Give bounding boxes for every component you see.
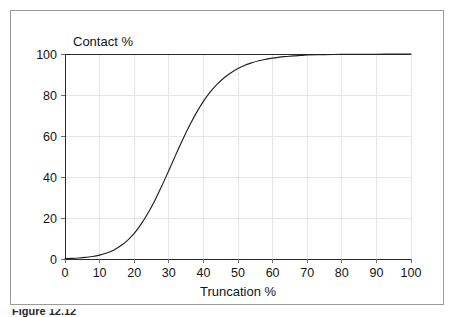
y-axis-tick-label: 80 xyxy=(43,89,57,103)
x-axis-title: Truncation % xyxy=(200,284,277,299)
y-axis-tick-label: 20 xyxy=(43,212,57,226)
y-axis-tick-label: 0 xyxy=(50,253,57,267)
x-axis-tick-label: 90 xyxy=(369,266,383,280)
chart-plot-container: 020406080100 0102030405060708090100 Cont… xyxy=(11,11,445,306)
figure-caption-text: Figure 12.12 xyxy=(12,309,182,317)
figure-page: 020406080100 0102030405060708090100 Cont… xyxy=(0,0,454,317)
y-axis-tick-label: 100 xyxy=(36,48,57,62)
x-axis-ticks-group: 0102030405060708090100 xyxy=(62,259,422,280)
x-axis-tick-label: 50 xyxy=(231,266,245,280)
x-axis-tick-label: 80 xyxy=(335,266,349,280)
x-axis-tick-label: 10 xyxy=(93,266,107,280)
x-axis-tick-label: 70 xyxy=(300,266,314,280)
sigmoid-line-chart: 020406080100 0102030405060708090100 Cont… xyxy=(11,11,445,306)
y-axis-title: Contact % xyxy=(73,34,133,49)
figure-border-frame: 020406080100 0102030405060708090100 Cont… xyxy=(10,10,444,305)
y-axis-tick-label: 40 xyxy=(43,171,57,185)
x-axis-tick-label: 100 xyxy=(401,266,422,280)
x-axis-tick-label: 20 xyxy=(127,266,141,280)
grid-lines-group xyxy=(65,54,411,259)
x-axis-tick-label: 0 xyxy=(62,266,69,280)
figure-caption-clipped: Figure 12.12 xyxy=(12,309,182,317)
x-axis-tick-label: 40 xyxy=(196,266,210,280)
x-axis-tick-label: 60 xyxy=(266,266,280,280)
y-axis-ticks-group: 020406080100 xyxy=(36,48,65,267)
y-axis-tick-label: 60 xyxy=(43,130,57,144)
x-axis-tick-label: 30 xyxy=(162,266,176,280)
